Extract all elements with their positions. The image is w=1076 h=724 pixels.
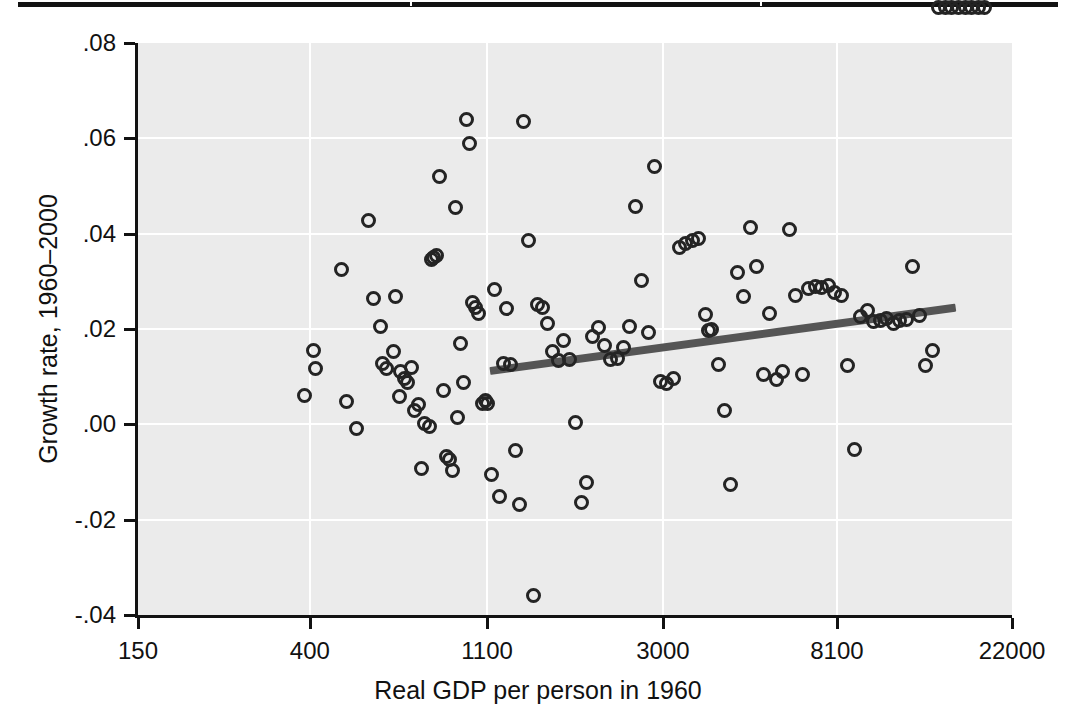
data-point — [925, 343, 940, 358]
x-axis-tick-label: 150 — [118, 639, 158, 663]
data-point — [503, 357, 518, 372]
data-point — [622, 319, 637, 334]
data-point — [782, 222, 797, 237]
y-axis-tick — [124, 42, 135, 45]
data-point — [912, 308, 927, 323]
gridline-horizontal — [138, 328, 1012, 330]
page-top-rule — [18, 2, 1058, 7]
data-point — [366, 291, 381, 306]
data-point — [628, 199, 643, 214]
data-point — [386, 344, 401, 359]
data-point — [411, 397, 426, 412]
data-point — [521, 233, 536, 248]
x-axis-tick-label: 400 — [290, 639, 330, 663]
data-point — [388, 289, 403, 304]
data-point — [666, 371, 681, 386]
gridline-vertical — [836, 43, 838, 615]
data-point — [905, 259, 920, 274]
x-axis-tick — [836, 618, 839, 629]
page-top-rule-gap-right — [760, 2, 762, 6]
scatter-plot-figure: .08.06.04.02.00-.02-.0415040011003000810… — [0, 0, 1076, 724]
data-point — [540, 316, 555, 331]
data-point — [579, 475, 594, 490]
x-axis-line — [135, 615, 1012, 618]
x-axis-tick — [137, 618, 140, 629]
x-axis-tick — [662, 618, 665, 629]
x-axis-tick-label: 3000 — [636, 639, 689, 663]
y-axis-title: Growth rate, 1960–2000 — [36, 29, 61, 629]
data-point — [349, 421, 364, 436]
data-point — [834, 288, 849, 303]
y-axis-tick — [124, 328, 135, 331]
data-point — [591, 320, 606, 335]
data-point — [308, 361, 323, 376]
gridline-vertical — [309, 43, 311, 615]
data-point — [568, 415, 583, 430]
data-point — [977, 0, 992, 15]
data-point — [492, 489, 507, 504]
data-point — [462, 136, 477, 151]
gridline-vertical — [662, 43, 664, 615]
y-axis-tick — [124, 519, 135, 522]
data-point — [429, 248, 444, 263]
gridline-horizontal — [138, 519, 1012, 521]
data-point — [456, 375, 471, 390]
y-axis-tick — [124, 137, 135, 140]
data-point — [373, 319, 388, 334]
y-axis-tick — [124, 233, 135, 236]
data-point — [422, 419, 437, 434]
x-axis-tick — [486, 618, 489, 629]
data-point — [749, 259, 764, 274]
data-point — [339, 394, 354, 409]
y-axis-tick — [124, 423, 135, 426]
y-axis-tick — [124, 614, 135, 617]
data-point — [445, 463, 460, 478]
x-axis-title: Real GDP per person in 1960 — [0, 678, 1076, 703]
page-top-rule-gap-left — [410, 2, 412, 6]
data-point — [698, 307, 713, 322]
data-point — [508, 443, 523, 458]
data-point — [453, 336, 468, 351]
y-axis-line — [135, 43, 138, 615]
data-point — [404, 360, 419, 375]
x-axis-tick-label: 8100 — [810, 639, 863, 663]
data-point — [717, 403, 732, 418]
x-axis-tick — [1011, 618, 1014, 629]
data-point — [840, 358, 855, 373]
data-point — [847, 442, 862, 457]
data-point — [414, 461, 429, 476]
gridline-vertical — [486, 43, 488, 615]
data-point — [448, 200, 463, 215]
data-point — [641, 325, 656, 340]
data-point — [436, 383, 451, 398]
x-axis-tick-label: 1100 — [461, 639, 513, 663]
data-point — [597, 338, 612, 353]
gridline-horizontal — [138, 233, 1012, 235]
data-point — [616, 340, 631, 355]
data-point — [512, 497, 527, 512]
data-point — [526, 588, 541, 603]
data-point — [711, 357, 726, 372]
x-axis-tick — [309, 618, 312, 629]
gridline-horizontal — [138, 137, 1012, 139]
data-point — [574, 495, 589, 510]
x-axis-tick-label: 22000 — [979, 639, 1046, 663]
